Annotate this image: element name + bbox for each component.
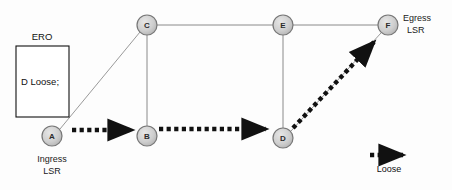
node-a[interactable]: A: [42, 126, 62, 146]
egress-lsr-line1: Egress: [403, 13, 432, 23]
network-diagram: ERO D Loose; A B C D E: [0, 0, 452, 190]
diagram-canvas: ERO D Loose; A B C D E: [0, 0, 452, 190]
node-e[interactable]: E: [273, 15, 293, 35]
lsp-path: [72, 42, 374, 130]
node-b[interactable]: B: [137, 126, 157, 146]
ero-box: ERO D Loose;: [16, 31, 69, 117]
ero-entry-d-loose: D Loose;: [21, 76, 59, 87]
ingress-lsr-line1: Ingress: [37, 154, 67, 164]
egress-lsr-line2: LSR: [407, 25, 425, 35]
legend-loose: Loose: [370, 155, 403, 174]
ero-box-title: ERO: [32, 31, 53, 42]
link-a-c: [60, 32, 140, 129]
node-e-label: E: [280, 21, 286, 30]
egress-lsr-label: Egress LSR: [403, 13, 432, 35]
node-d[interactable]: D: [273, 128, 293, 148]
ingress-lsr-label: Ingress LSR: [37, 154, 67, 176]
ingress-lsr-line2: LSR: [43, 166, 61, 176]
legend-loose-label: Loose: [377, 164, 402, 174]
node-f[interactable]: F: [378, 15, 398, 35]
node-a-label: A: [49, 132, 55, 141]
topology-links: [60, 25, 381, 131]
node-b-label: B: [144, 132, 150, 141]
node-c[interactable]: C: [137, 15, 157, 35]
node-d-label: D: [280, 134, 286, 143]
node-f-label: F: [386, 21, 391, 30]
node-c-label: C: [144, 21, 150, 30]
